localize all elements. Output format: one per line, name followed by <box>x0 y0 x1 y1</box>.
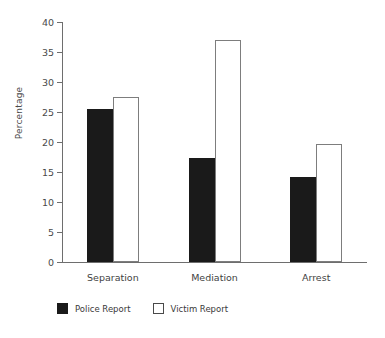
legend-label-police-report: Police Report <box>75 304 131 314</box>
plot-area: 0510152025303540 SeparationMediationArre… <box>62 22 367 262</box>
bar-police-report-mediation <box>189 158 215 262</box>
bar-victim-report-separation <box>113 97 139 262</box>
bar-police-report-separation <box>87 109 113 262</box>
legend-swatch-filled-icon <box>57 303 68 314</box>
y-tick-label: 0 <box>48 257 54 268</box>
bar-chart: Percentage 0510152025303540 SeparationMe… <box>0 0 385 338</box>
bar-police-report-arrest <box>290 177 316 262</box>
y-tick-label: 15 <box>42 167 54 178</box>
y-tick-label: 30 <box>42 77 54 88</box>
bar-victim-report-arrest <box>316 144 342 262</box>
y-tick-mark <box>57 262 62 263</box>
y-tick-label: 35 <box>42 47 54 58</box>
y-tick-mark <box>57 52 62 53</box>
y-axis-line <box>62 22 63 262</box>
y-tick-label: 40 <box>42 17 54 28</box>
legend-item-victim-report: Victim Report <box>153 303 229 314</box>
y-tick-mark <box>57 232 62 233</box>
y-tick-label: 25 <box>42 107 54 118</box>
x-axis-label-separation: Separation <box>87 272 139 283</box>
bar-victim-report-mediation <box>215 40 241 262</box>
legend-label-victim-report: Victim Report <box>171 304 229 314</box>
y-tick-mark <box>57 112 62 113</box>
legend-swatch-outlined-icon <box>153 303 164 314</box>
y-tick-mark <box>57 142 62 143</box>
legend-item-police-report: Police Report <box>57 303 131 314</box>
x-axis-label-mediation: Mediation <box>191 272 238 283</box>
y-tick-label: 10 <box>42 197 54 208</box>
x-axis-label-arrest: Arrest <box>302 272 330 283</box>
y-tick-mark <box>57 202 62 203</box>
y-tick-label: 5 <box>48 227 54 238</box>
chart-legend: Police Report Victim Report <box>57 303 228 314</box>
y-axis-title: Percentage <box>14 73 24 153</box>
y-tick-mark <box>57 22 62 23</box>
y-tick-mark <box>57 82 62 83</box>
x-axis-line <box>62 262 367 263</box>
y-tick-mark <box>57 172 62 173</box>
y-tick-label: 20 <box>42 137 54 148</box>
